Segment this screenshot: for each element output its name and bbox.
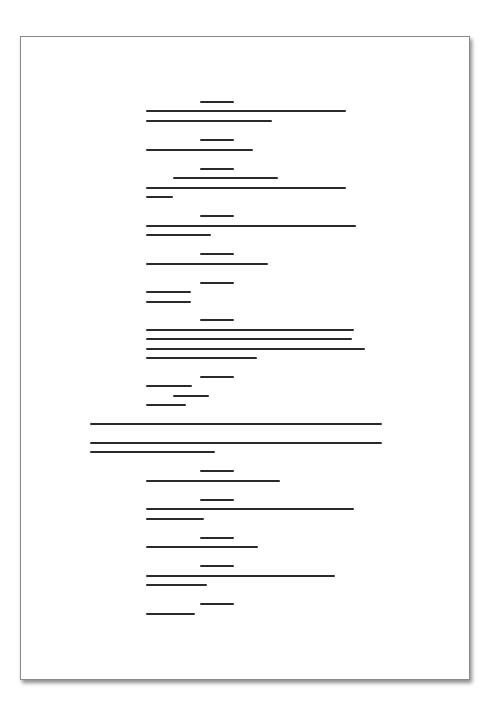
redacted-line [146, 120, 272, 122]
redacted-line [200, 168, 234, 170]
redacted-line [200, 319, 234, 321]
redacted-line [146, 187, 346, 189]
redacted-line [146, 584, 207, 586]
redacted-line [200, 253, 234, 255]
redacted-line [146, 357, 257, 359]
redacted-line [146, 575, 335, 577]
redacted-line [146, 149, 253, 151]
redacted-line [200, 603, 234, 605]
redacted-line [146, 291, 191, 293]
redacted-line [200, 139, 234, 141]
redacted-line [90, 451, 215, 453]
redacted-line [200, 376, 234, 378]
redacted-line [146, 385, 192, 387]
redacted-line [146, 508, 354, 510]
redacted-line [146, 518, 204, 520]
redacted-line [200, 282, 234, 284]
redacted-line [173, 395, 209, 397]
redacted-line [146, 263, 268, 265]
redacted-line [146, 301, 191, 303]
redacted-line [173, 177, 278, 179]
redacted-line [90, 442, 382, 444]
viewer-canvas [0, 0, 498, 709]
redacted-line [200, 499, 234, 501]
redacted-line [146, 348, 365, 350]
redacted-line [200, 470, 234, 472]
redacted-line [146, 110, 346, 112]
redacted-line [200, 537, 234, 539]
redacted-line [200, 101, 234, 103]
redacted-line [200, 565, 234, 567]
redacted-line [146, 234, 211, 236]
redacted-line [146, 404, 186, 406]
redacted-line [146, 546, 258, 548]
redacted-line [146, 613, 195, 615]
redacted-line [146, 480, 280, 482]
redacted-line [146, 329, 354, 331]
redacted-line [146, 338, 352, 340]
redacted-line [90, 423, 382, 425]
redacted-line [200, 215, 234, 217]
redacted-line [146, 225, 356, 227]
redacted-line [146, 196, 173, 198]
